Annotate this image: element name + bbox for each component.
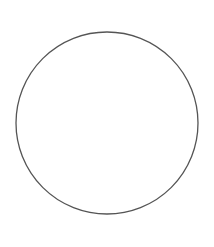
circle-outline [16,32,198,214]
diagram-canvas [0,0,214,247]
